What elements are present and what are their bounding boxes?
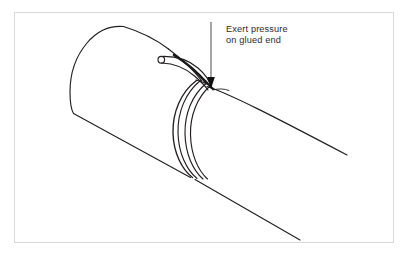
annotation-text-line-1: Exert pressure: [226, 24, 288, 35]
figure-root: Exert pressure on glued end: [0, 0, 407, 256]
image-border: [15, 13, 394, 243]
pipe-joint-diagram: [0, 0, 407, 256]
annotation-text-line-2: on glued end: [226, 35, 281, 46]
